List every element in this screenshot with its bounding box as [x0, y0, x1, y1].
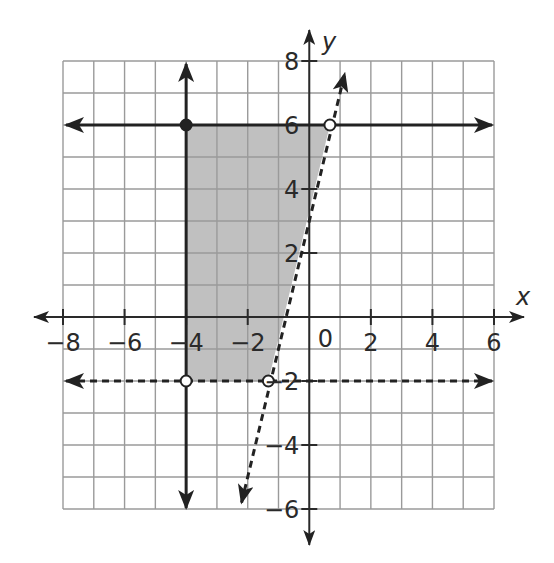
origin-label: 0: [318, 325, 333, 353]
y-axis-label: y: [321, 28, 337, 56]
x-tick-label: 2: [363, 329, 378, 357]
coordinate-plane: −8−6−4−224608642−2−4−6xy: [0, 0, 554, 563]
y-tick-label: −6: [264, 496, 299, 524]
x-tick-label: −4: [168, 329, 203, 357]
open-point: [181, 376, 192, 387]
y-tick-label: −4: [264, 432, 299, 460]
closed-point: [181, 120, 192, 131]
x-tick-label: 6: [486, 329, 501, 357]
y-tick-label: 2: [284, 240, 299, 268]
x-tick-label: −8: [45, 329, 80, 357]
x-axis-label: x: [515, 283, 531, 311]
x-tick-label: −6: [107, 329, 142, 357]
y-tick-label: 8: [284, 48, 299, 76]
open-point: [324, 120, 335, 131]
y-tick-label: 4: [284, 176, 299, 204]
y-tick-label: −2: [264, 368, 299, 396]
y-tick-label: 6: [284, 112, 299, 140]
x-tick-label: 4: [425, 329, 440, 357]
x-tick-label: −2: [230, 329, 265, 357]
